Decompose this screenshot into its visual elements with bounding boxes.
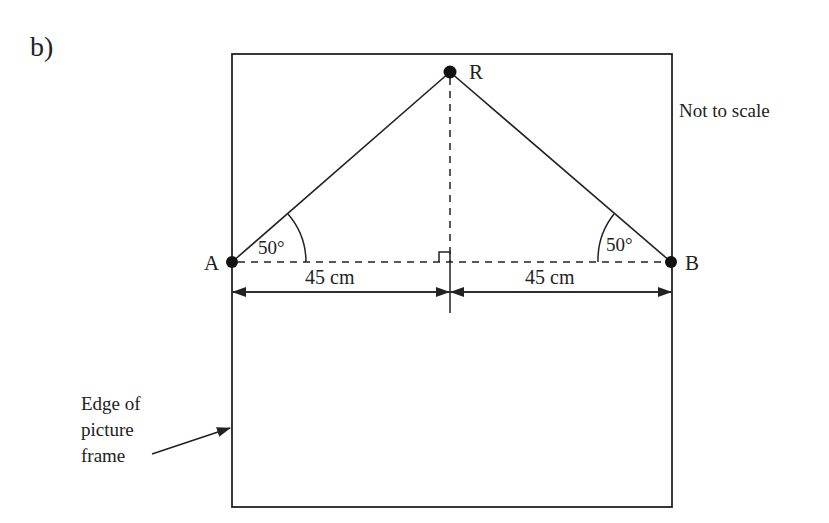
point-b-dot <box>665 256 677 268</box>
frame-label-line1: Edge of <box>81 393 141 414</box>
frame-label-line2: picture <box>81 419 134 440</box>
angle-label-a: 50° <box>258 237 285 258</box>
picture-frame <box>232 54 672 507</box>
point-a-dot <box>226 256 238 268</box>
not-to-scale-note: Not to scale <box>679 100 770 121</box>
diagram-canvas: b) Not to scale 45 cm 45 cm 50° 50° A B … <box>0 0 829 523</box>
point-b-label: B <box>685 251 699 275</box>
string-line-a-r <box>232 72 450 262</box>
measurement-right: 45 cm <box>525 266 575 288</box>
string-line-r-b <box>450 72 671 262</box>
measurement-left: 45 cm <box>305 266 355 288</box>
part-label: b) <box>30 31 53 62</box>
point-r-dot <box>444 66 457 79</box>
right-angle-marker <box>439 252 450 262</box>
frame-label-line3: frame <box>81 445 125 466</box>
angle-arc-a <box>288 214 306 262</box>
point-r-label: R <box>469 60 483 84</box>
frame-pointer-arrow <box>152 428 230 454</box>
angle-label-b: 50° <box>606 234 633 255</box>
point-a-label: A <box>204 251 220 275</box>
